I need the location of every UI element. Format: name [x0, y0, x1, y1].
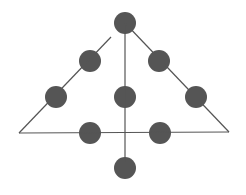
- dot-2: [79, 50, 101, 72]
- dot-3: [148, 50, 170, 72]
- dot-8: [149, 122, 171, 144]
- line-base: [19, 132, 229, 133]
- dot-triangle-diagram: [0, 0, 246, 195]
- dots-layer: [45, 12, 207, 179]
- line-left-side: [19, 37, 111, 133]
- line-right-side: [125, 23, 229, 132]
- dot-4: [45, 86, 67, 108]
